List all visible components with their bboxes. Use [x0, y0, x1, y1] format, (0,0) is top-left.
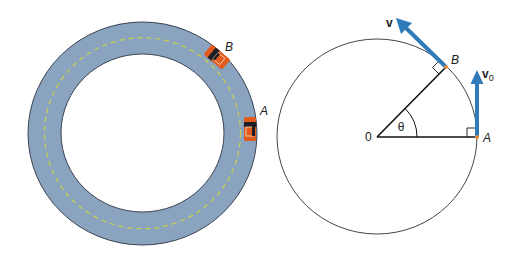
- car-b-label: B: [225, 40, 233, 54]
- road-inner-edge: [61, 54, 224, 212]
- theta-label: θ: [398, 120, 405, 134]
- point-a-label: A: [482, 131, 491, 145]
- theta-arc: [405, 109, 417, 137]
- point-a-marker: [475, 135, 479, 139]
- vector-diagram-panel: θ 0 A B v v0: [277, 16, 494, 234]
- race-track-panel: B A: [28, 22, 268, 245]
- center-label: 0: [365, 130, 372, 144]
- velocity-label: v: [386, 16, 393, 30]
- point-b-label: B: [451, 53, 459, 67]
- circular-motion-figure: B A θ 0 A B v v0: [0, 0, 519, 268]
- initial-velocity-subscript: 0: [489, 73, 494, 83]
- car-a: [244, 117, 256, 141]
- initial-velocity-label: v0: [482, 67, 494, 83]
- right-angle-marker-b: [433, 61, 440, 75]
- car-a-label: A: [259, 104, 268, 118]
- point-b-marker: [444, 65, 448, 69]
- radius-to-b: [377, 67, 446, 137]
